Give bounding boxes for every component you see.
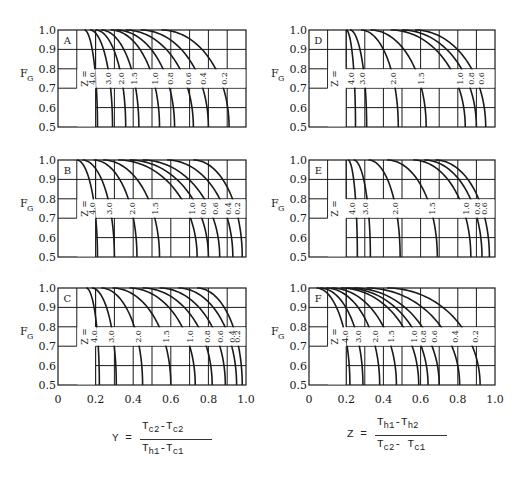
y-tick-label: 0.7 — [39, 340, 57, 353]
panel-d: 4.03.02.01.51.00.80.6Z =D1.00.90.80.70.6… — [271, 24, 495, 134]
curve-label: 1.5 — [130, 72, 139, 85]
y-tick-label: 0.7 — [39, 212, 57, 225]
x-tick-label: 0.4 — [375, 393, 393, 406]
y-tick-label: 1.0 — [290, 282, 308, 295]
curve-label: 2.0 — [134, 330, 143, 343]
y-tick-label: 0.6 — [290, 102, 308, 115]
y-tick-label: 1.0 — [39, 154, 57, 167]
curve-label: 2.0 — [391, 202, 400, 215]
panel-e: 4.03.02.01.51.00.80.6Z =E1.00.90.80.70.6… — [271, 154, 495, 264]
curve-label: 1.0 — [462, 202, 471, 215]
curve-label: 1.0 — [151, 72, 160, 85]
curve-label: 3.0 — [358, 72, 367, 85]
y-tick-label: 0.5 — [290, 379, 308, 392]
panel-letter: F — [315, 293, 322, 304]
fraction-bar — [375, 435, 447, 436]
curve-label: 4.0 — [341, 330, 350, 343]
y-axis-label-subscript: G — [278, 204, 284, 213]
y-axis-label-subscript: G — [27, 74, 33, 83]
panel-c: 4.03.02.01.51.00.80.60.40.2Z =C1.00.90.8… — [20, 282, 255, 406]
curve-label: 0.8 — [166, 72, 175, 85]
curve-label: 0.6 — [480, 202, 489, 215]
y-tick-label: 0.8 — [39, 63, 57, 76]
y-tick-label: 0.8 — [39, 321, 57, 334]
curve-label: 0.4 — [451, 330, 460, 343]
curve-label: 1.5 — [428, 202, 437, 215]
y-tick-label: 0.7 — [290, 212, 308, 225]
panel-letter: D — [314, 35, 322, 46]
y-tick-label: 1.0 — [290, 154, 308, 167]
y-tick-label: 0.5 — [39, 379, 57, 392]
curve-label: 0.6 — [211, 202, 220, 215]
curve-label: 3.0 — [104, 72, 113, 85]
y-tick-label: 0.9 — [290, 301, 308, 314]
y-tick-label: 0.6 — [39, 102, 57, 115]
y-definition-formula: Y = Tc2-Tc2 Th1-Tc1 — [112, 420, 242, 460]
x-tick-label: 0.6 — [162, 393, 180, 406]
z-parameter-label: Z = — [80, 328, 90, 345]
y-tick-label: 0.7 — [290, 82, 308, 95]
z-parameter-label: Z = — [330, 70, 340, 87]
y-tick-label: 0.8 — [39, 193, 57, 206]
curve-label: 0.6 — [477, 72, 486, 85]
x-tick-label: 0 — [55, 393, 62, 406]
y-tick-label: 0.9 — [39, 43, 57, 56]
y-tick-label: 1.0 — [39, 282, 57, 295]
y-tick-label: 0.9 — [39, 173, 57, 186]
y-tick-label: 0.9 — [39, 301, 57, 314]
y-tick-label: 0.5 — [290, 251, 308, 264]
x-tick-label: 0 — [306, 393, 313, 406]
curve-label: 1.5 — [162, 330, 171, 343]
x-tick-label: 1.0 — [237, 393, 255, 406]
formula-denominator: Tc2- Tc1 — [377, 438, 425, 453]
curve-label: 3.0 — [354, 330, 363, 343]
y-axis-label-subscript: G — [27, 332, 33, 341]
curve-label: 2.0 — [128, 202, 137, 215]
curve-label: 3.0 — [361, 202, 370, 215]
curve-label: 0.8 — [199, 202, 208, 215]
curve-label: 0.6 — [430, 330, 439, 343]
y-tick-label: 0.6 — [39, 360, 57, 373]
curve-label: 0.2 — [220, 72, 229, 85]
curve-label: 1.0 — [410, 330, 419, 343]
z-parameter-label: Z = — [330, 328, 340, 345]
panel-f: 4.03.02.01.51.00.80.60.40.2Z =F1.00.90.8… — [271, 282, 504, 406]
fraction-bar — [140, 439, 212, 440]
z-parameter-label: Z = — [80, 70, 90, 87]
z-parameter-label: Z = — [330, 200, 340, 217]
y-tick-label: 1.0 — [290, 24, 308, 37]
curve-label: 0.6 — [216, 330, 225, 343]
x-tick-label: 1.0 — [486, 393, 504, 406]
curve-label: 1.0 — [188, 202, 197, 215]
curve-label: 4.0 — [88, 202, 97, 215]
formula-numerator: Tc2-Tc2 — [142, 420, 183, 435]
curve-label: 3.0 — [107, 330, 116, 343]
y-tick-label: 0.5 — [39, 251, 57, 264]
panel-b: 4.03.02.01.51.00.80.60.40.2Z =B1.00.90.8… — [20, 154, 246, 264]
curve-label: 1.0 — [456, 72, 465, 85]
formula-lhs: Z = — [347, 428, 367, 440]
y-tick-label: 0.8 — [290, 193, 308, 206]
panel-letter: B — [64, 165, 71, 176]
curve-label: 2.0 — [389, 72, 398, 85]
y-tick-label: 0.7 — [39, 82, 57, 95]
y-tick-label: 0.6 — [290, 360, 308, 373]
y-tick-label: 0.5 — [39, 121, 57, 134]
curve-label: 0.8 — [203, 330, 212, 343]
panel-letter: E — [315, 165, 322, 176]
y-axis-label-subscript: G — [27, 204, 33, 213]
y-tick-label: 1.0 — [39, 24, 57, 37]
y-tick-label: 0.8 — [290, 321, 308, 334]
z-definition-formula: Z = Th1-Th2 Tc2- Tc1 — [347, 416, 477, 456]
y-tick-label: 0.9 — [290, 43, 308, 56]
curve-label: 4.0 — [88, 72, 97, 85]
formula-numerator: Th1-Th2 — [377, 416, 418, 431]
curve-label: 0.2 — [233, 202, 242, 215]
formula-lhs: Y = — [112, 432, 132, 444]
y-tick-label: 0.5 — [290, 121, 308, 134]
curve-label: 0.4 — [224, 202, 233, 215]
curve-label: 0.8 — [419, 330, 428, 343]
x-tick-label: 0.4 — [124, 393, 142, 406]
y-tick-label: 0.7 — [290, 340, 308, 353]
curve-label: 4.0 — [348, 202, 357, 215]
